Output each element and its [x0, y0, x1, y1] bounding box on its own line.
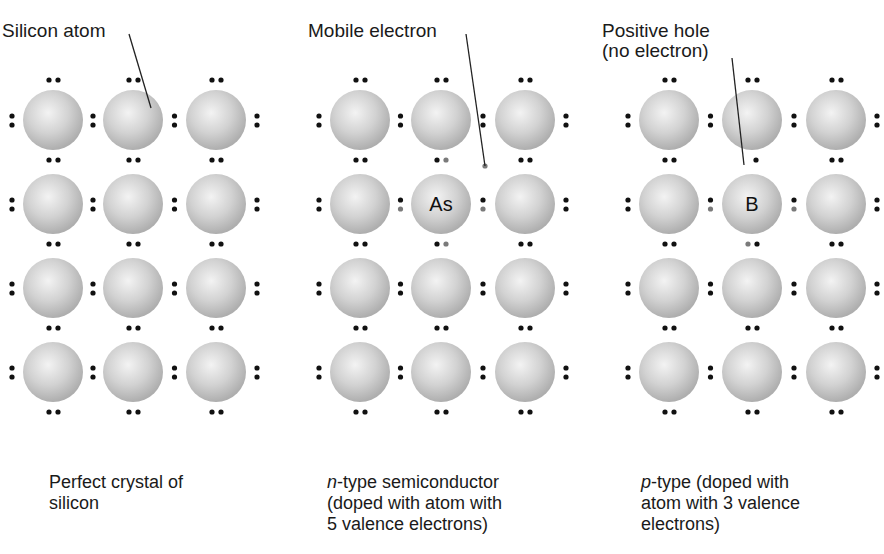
- valence-electron: [126, 157, 131, 162]
- valence-electron: [398, 365, 403, 370]
- valence-electron: [9, 290, 14, 295]
- valence-electron: [874, 206, 879, 211]
- valence-electron: [316, 122, 321, 127]
- valence-electron: [209, 241, 214, 246]
- silicon-atom: [495, 90, 555, 150]
- silicon-atom: [806, 174, 866, 234]
- valence-electron: [625, 197, 630, 202]
- valence-electron: [625, 290, 630, 295]
- lattice-p-type: B: [625, 58, 879, 415]
- valence-electron: [316, 365, 321, 370]
- valence-electron: [172, 281, 177, 286]
- valence-electron: [625, 206, 630, 211]
- valence-electron: [625, 281, 630, 286]
- valence-electron: [218, 409, 223, 414]
- valence-electron: [9, 113, 14, 118]
- valence-electron: [838, 241, 843, 246]
- valence-electron: [398, 122, 403, 127]
- valence-electron: [398, 197, 403, 202]
- valence-electron: [90, 206, 95, 211]
- silicon-atom: [495, 258, 555, 318]
- valence-electron: [480, 365, 485, 370]
- lattice-perfect-crystal: [9, 34, 259, 415]
- dopant-electron: [745, 241, 750, 246]
- valence-electron: [362, 325, 367, 330]
- valence-electron: [353, 409, 358, 414]
- semiconductor-lattice-diagram: AsB: [0, 0, 884, 554]
- valence-electron: [708, 365, 713, 370]
- valence-electron: [55, 157, 60, 162]
- caption-line: p-type (doped with: [641, 472, 800, 493]
- valence-electron: [46, 241, 51, 246]
- valence-electron: [708, 122, 713, 127]
- valence-electron: [745, 409, 750, 414]
- valence-electron: [527, 241, 532, 246]
- silicon-atom: [639, 342, 699, 402]
- valence-electron: [209, 157, 214, 162]
- valence-electron: [135, 77, 140, 82]
- valence-electron: [353, 241, 358, 246]
- silicon-atom: [186, 90, 246, 150]
- silicon-atom: [722, 258, 782, 318]
- valence-electron: [708, 113, 713, 118]
- valence-electron: [791, 122, 796, 127]
- valence-electron: [791, 197, 796, 202]
- valence-electron: [254, 281, 259, 286]
- valence-electron: [480, 281, 485, 286]
- silicon-atom: [495, 174, 555, 234]
- valence-electron: [527, 157, 532, 162]
- caption-perfect-crystal: Perfect crystal of silicon: [49, 472, 183, 514]
- valence-electron: [434, 325, 439, 330]
- valence-electron: [829, 409, 834, 414]
- lattice-n-type: As: [316, 34, 568, 415]
- valence-electron: [745, 325, 750, 330]
- valence-electron: [518, 325, 523, 330]
- silicon-atom: [330, 90, 390, 150]
- italic-p: p: [641, 472, 651, 492]
- valence-electron: [563, 374, 568, 379]
- valence-electron: [480, 197, 485, 202]
- valence-electron: [838, 325, 843, 330]
- silicon-atom: [806, 258, 866, 318]
- valence-electron: [9, 374, 14, 379]
- valence-electron: [254, 290, 259, 295]
- valence-electron: [671, 157, 676, 162]
- silicon-atom: [103, 342, 163, 402]
- valence-electron: [838, 157, 843, 162]
- valence-electron: [791, 374, 796, 379]
- valence-electron: [745, 77, 750, 82]
- valence-electron: [443, 409, 448, 414]
- valence-electron: [563, 290, 568, 295]
- valence-electron: [254, 374, 259, 379]
- valence-electron: [362, 157, 367, 162]
- valence-electron: [398, 113, 403, 118]
- valence-electron: [708, 281, 713, 286]
- valence-electron: [353, 325, 358, 330]
- valence-electron: [362, 77, 367, 82]
- valence-electron: [172, 113, 177, 118]
- valence-electron: [9, 206, 14, 211]
- valence-electron: [209, 77, 214, 82]
- valence-electron: [218, 241, 223, 246]
- valence-electron: [791, 365, 796, 370]
- valence-electron: [563, 365, 568, 370]
- valence-electron: [662, 409, 667, 414]
- valence-electron: [9, 197, 14, 202]
- valence-electron: [671, 77, 676, 82]
- silicon-atom: [23, 342, 83, 402]
- valence-electron: [135, 241, 140, 246]
- valence-electron: [316, 206, 321, 211]
- caption-text: -type semiconductor: [337, 472, 499, 492]
- valence-electron: [527, 325, 532, 330]
- valence-electron: [480, 374, 485, 379]
- valence-electron: [625, 374, 630, 379]
- valence-electron: [480, 113, 485, 118]
- valence-electron: [434, 241, 439, 246]
- valence-electron: [708, 374, 713, 379]
- valence-electron: [172, 197, 177, 202]
- valence-electron: [398, 290, 403, 295]
- valence-electron: [480, 122, 485, 127]
- valence-electron: [829, 241, 834, 246]
- silicon-atom: [639, 258, 699, 318]
- valence-electron: [874, 281, 879, 286]
